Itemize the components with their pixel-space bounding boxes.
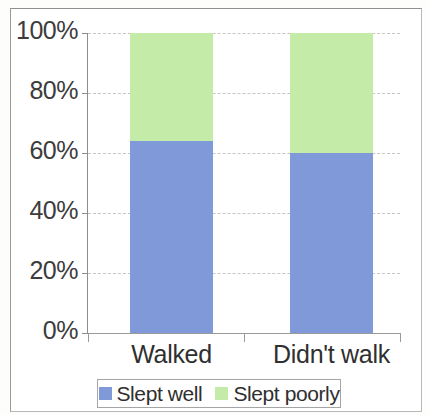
legend-label: Slept well bbox=[117, 382, 203, 406]
bar-didn-t-walk bbox=[290, 33, 373, 333]
legend-item: Slept well bbox=[99, 382, 203, 406]
legend-swatch-icon bbox=[215, 387, 228, 400]
bar-walked bbox=[130, 33, 213, 333]
legend-label: Slept poorly bbox=[233, 382, 339, 406]
chart-legend: Slept wellSlept poorly bbox=[97, 379, 341, 408]
legend-item: Slept poorly bbox=[215, 382, 339, 406]
legend-swatch-icon bbox=[99, 387, 112, 400]
y-axis-label: 100% bbox=[0, 16, 78, 45]
plot-area bbox=[88, 33, 400, 333]
chart-figure: 100%80%60%40%20%0% WalkedDidn't walk Sle… bbox=[0, 0, 428, 415]
bar-segment-slept-well bbox=[130, 141, 213, 333]
y-axis-label: 0% bbox=[0, 316, 78, 345]
bar-segment-slept-poorly bbox=[130, 33, 213, 141]
y-axis-label: 40% bbox=[0, 196, 78, 225]
y-axis-label: 60% bbox=[0, 136, 78, 165]
bar-segment-slept-well bbox=[290, 153, 373, 333]
y-axis-label: 80% bbox=[0, 76, 78, 105]
bar-segment-slept-poorly bbox=[290, 33, 373, 153]
x-axis-label: Walked bbox=[82, 340, 262, 369]
x-axis-label: Didn't walk bbox=[242, 340, 422, 369]
y-axis-label: 20% bbox=[0, 256, 78, 285]
